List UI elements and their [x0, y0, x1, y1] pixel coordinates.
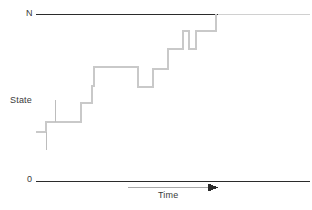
step-plot-figure: N 0 State Time [0, 0, 312, 210]
top-axis-label-n: N [26, 9, 33, 18]
y-axis-label-state: State [10, 96, 32, 105]
x-axis-label-time: Time [158, 191, 178, 200]
state-step-path [36, 14, 216, 132]
plot-canvas [0, 0, 312, 210]
state-step-path-group [36, 14, 216, 132]
bottom-axis-label-zero: 0 [27, 175, 32, 184]
time-arrow-head [208, 184, 218, 192]
